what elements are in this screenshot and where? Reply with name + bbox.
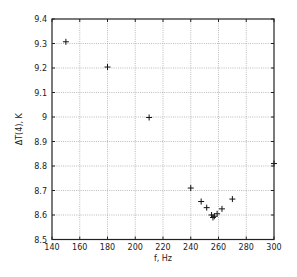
x-tick-labels: 140160180200220240260280300 <box>44 243 281 252</box>
x-tick-label: 160 <box>72 243 87 252</box>
y-axis-label: ΔT(4), K <box>15 112 24 145</box>
y-tick-labels: 8.58.68.78.88.999.19.29.39.4 <box>34 15 47 245</box>
y-tick-label: 8.9 <box>34 138 47 147</box>
plus-marker-icon <box>229 196 235 202</box>
y-tick-label: 9 <box>42 113 47 122</box>
x-tick-label: 300 <box>266 243 281 252</box>
x-tick-label: 200 <box>128 243 143 252</box>
grid-lines <box>52 19 274 240</box>
x-axis-label: f, Hz <box>154 254 172 263</box>
y-tick-label: 9.3 <box>34 40 47 49</box>
plus-marker-icon <box>146 114 152 120</box>
x-tick-label: 280 <box>239 243 254 252</box>
plus-marker-icon <box>105 64 111 70</box>
y-tick-label: 8.7 <box>34 187 47 196</box>
x-tick-label: 260 <box>211 243 226 252</box>
y-tick-label: 8.5 <box>34 236 47 245</box>
x-tick-label: 220 <box>155 243 170 252</box>
y-tick-label: 8.6 <box>34 211 47 220</box>
data-points <box>63 39 277 221</box>
x-tick-label: 240 <box>183 243 198 252</box>
x-tick-label: 180 <box>100 243 115 252</box>
y-tick-label: 9.1 <box>34 89 47 98</box>
scatter-chart: 140160180200220240260280300 8.58.68.78.8… <box>0 0 297 277</box>
plus-marker-icon <box>204 205 210 211</box>
y-tick-label: 9.4 <box>34 15 47 24</box>
plus-marker-icon <box>198 199 204 205</box>
plus-marker-icon <box>219 206 225 212</box>
y-tick-label: 8.8 <box>34 162 47 171</box>
y-tick-label: 9.2 <box>34 64 47 73</box>
